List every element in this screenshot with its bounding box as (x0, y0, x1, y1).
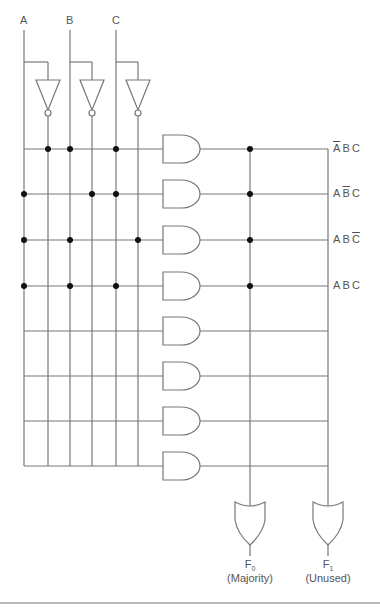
and-gate-icon (163, 272, 200, 300)
junction-dot (113, 146, 119, 152)
inverter-bubble-icon (45, 110, 51, 116)
junction-dot (247, 191, 253, 197)
junction-dot (113, 283, 119, 289)
junction-dot (135, 237, 141, 243)
inverter-gate-icon (36, 80, 60, 110)
input-label-b: B (66, 14, 73, 26)
minterm-label: A B C (333, 187, 360, 199)
junction-dot (67, 283, 73, 289)
and-gate-icon (163, 407, 200, 435)
and-gate-icon (163, 317, 200, 345)
and-gate-icon (163, 180, 200, 208)
inverter-gate-icon (126, 80, 150, 110)
junction-dot (45, 146, 51, 152)
and-gate-icon (163, 452, 200, 480)
circuit-diagram (0, 0, 380, 613)
input-label-c: C (112, 14, 120, 26)
output-label-f1: F1(Unused) (288, 558, 368, 584)
output-label-f0: F0(Majority) (210, 558, 290, 584)
junction-dot (247, 146, 253, 152)
inverter-bubble-icon (135, 110, 141, 116)
junction-dot (67, 146, 73, 152)
and-gate-icon (163, 135, 200, 163)
junction-dot (21, 237, 27, 243)
junction-dot (21, 191, 27, 197)
minterm-label: A B C (333, 142, 360, 154)
junction-dot (247, 237, 253, 243)
junction-dot (21, 283, 27, 289)
and-gate-icon (163, 362, 200, 390)
junction-dot (89, 191, 95, 197)
inverter-gate-icon (80, 80, 104, 110)
input-label-a: A (20, 14, 27, 26)
junction-dot (247, 283, 253, 289)
junction-dot (67, 237, 73, 243)
or-gate-icon (235, 502, 265, 545)
inverter-bubble-icon (89, 110, 95, 116)
or-gate-icon (313, 502, 343, 545)
junction-dot (113, 191, 119, 197)
minterm-label: A B C (333, 233, 360, 245)
minterm-label: A B C (333, 279, 360, 291)
and-gate-icon (163, 226, 200, 254)
